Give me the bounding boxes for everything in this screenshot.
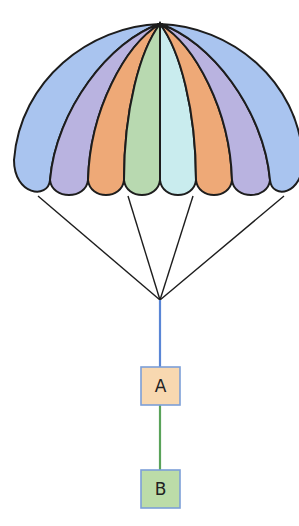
suspension-line-3 — [160, 196, 193, 300]
box-b: B — [141, 470, 180, 508]
box-b-label: B — [155, 479, 167, 499]
suspension-lines — [38, 196, 284, 300]
canopy — [14, 24, 299, 195]
suspension-line-2 — [128, 196, 160, 300]
box-a-label: A — [155, 376, 167, 396]
suspension-line-1 — [38, 196, 160, 300]
parachute-diagram: A B — [0, 0, 299, 526]
suspension-line-4 — [160, 196, 284, 300]
box-a: A — [141, 367, 180, 405]
